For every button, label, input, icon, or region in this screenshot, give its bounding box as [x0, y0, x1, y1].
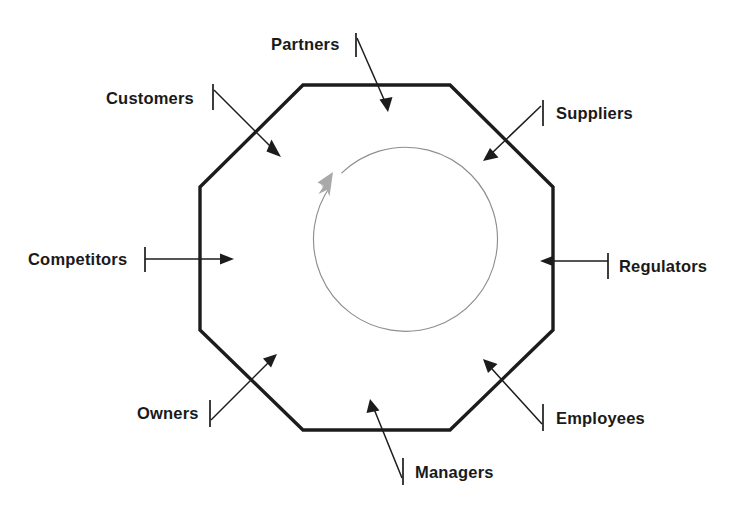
label-competitors: Competitors: [28, 250, 127, 268]
label-managers: Managers: [415, 463, 494, 481]
pointer-employees: [492, 369, 542, 424]
label-employees: Employees: [556, 409, 645, 427]
stakeholder-diagram: Partners Customers Suppliers Competitors: [0, 0, 739, 507]
label-owners: Owners: [137, 404, 199, 422]
label-suppliers: Suppliers: [556, 104, 633, 122]
label-partners: Partners: [271, 35, 340, 53]
pointer-suppliers: [492, 106, 541, 153]
diagram-canvas: Partners Customers Suppliers Competitors: [0, 0, 739, 507]
label-customers: Customers: [106, 89, 194, 107]
stakeholder-regulators: Regulators: [540, 253, 707, 279]
pointer-owners: [211, 363, 268, 420]
label-regulators: Regulators: [619, 257, 707, 275]
pointer-customers: [214, 90, 273, 149]
